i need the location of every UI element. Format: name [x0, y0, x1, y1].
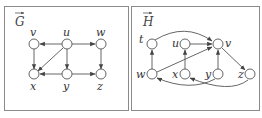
node-z [245, 69, 255, 79]
label-z: z [237, 68, 244, 81]
digraph-figure: G v u w x y z H [0, 0, 262, 118]
label-v: v [30, 26, 37, 39]
node-v [213, 39, 223, 49]
node-x [180, 69, 190, 79]
node-y [213, 69, 223, 79]
label-u: u [172, 37, 179, 50]
graph-title-h: H [142, 15, 154, 29]
panel-g: G v u w x y z [5, 7, 129, 111]
label-u: u [63, 26, 70, 39]
label-x: x [172, 68, 179, 81]
node-z [96, 69, 106, 79]
label-t: t [139, 33, 144, 46]
panel-g-title: G [15, 13, 25, 29]
node-x [29, 69, 39, 79]
node-v [29, 39, 39, 49]
panel-h: H t u v w x y z [132, 7, 260, 111]
node-t [147, 39, 157, 49]
label-y: y [204, 68, 212, 81]
node-y [62, 69, 72, 79]
label-y: y [62, 80, 70, 93]
label-w: w [136, 68, 146, 81]
graph-title-g: G [15, 15, 25, 29]
node-u [180, 39, 190, 49]
node-w [96, 39, 106, 49]
label-z: z [96, 80, 103, 93]
node-u [62, 39, 72, 49]
label-v: v [225, 37, 232, 50]
label-w: w [96, 26, 106, 39]
node-w [147, 69, 157, 79]
panel-h-title: H [142, 13, 154, 29]
label-x: x [30, 80, 37, 93]
